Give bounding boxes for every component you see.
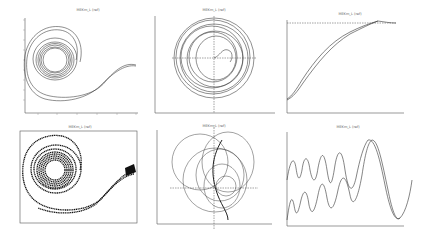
panel-title: MEKm_L (ref) bbox=[68, 125, 92, 129]
panel-top-middle: MEKm_L (ref) bbox=[155, 8, 275, 113]
panel-bottom-right: MEKm_L (ref) bbox=[287, 125, 412, 226]
panel-bottom-left: MEKm_L (ref) bbox=[20, 125, 137, 223]
panel-top-right: MEKm_L (ref) bbox=[287, 12, 404, 113]
panel-top-left: MEKm_L (ref) bbox=[23, 8, 138, 115]
panel-title: MEKm_L (ref) bbox=[76, 8, 100, 12]
panel-title: MEKm_L (ref) bbox=[338, 12, 362, 16]
panel-bottom-middle: MEKm_L (ref) bbox=[157, 124, 272, 230]
figure: MEKm_L (ref) MEKm_L bbox=[0, 0, 421, 243]
panel-title: MEKm_L (ref) bbox=[336, 125, 360, 129]
panel-title: MEKm_L (ref) bbox=[202, 124, 226, 128]
figure-canvas: MEKm_L (ref) MEKm_L bbox=[0, 0, 421, 243]
panel-title: MEKm_L (ref) bbox=[202, 8, 226, 12]
